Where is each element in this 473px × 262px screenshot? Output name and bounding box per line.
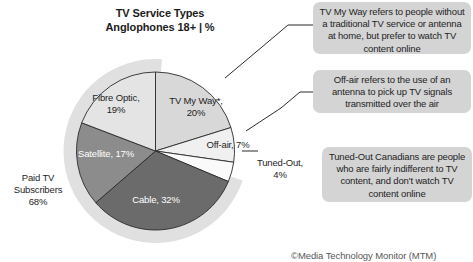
slice-label-satellite-text: Satellite, 17% — [78, 148, 134, 159]
callout-tuned-out-text: Tuned-Out Canadians are people who are f… — [329, 151, 465, 199]
slice-label-tv-my-way-name: TV My Way*, — [169, 95, 222, 106]
paid-tv-subscribers-label: Paid TV Subscribers 68% — [2, 172, 74, 208]
callout-tv-my-way: TV My Way refers to people without a tra… — [313, 2, 471, 54]
slice-label-tv-my-way: TV My Way*, 20% — [158, 95, 234, 119]
paid-tv-line2: Subscribers — [2, 184, 74, 196]
paid-tv-line1: Paid TV — [22, 172, 55, 183]
slice-label-fibre-optic-value: 19% — [78, 104, 154, 116]
paid-tv-line3: 68% — [2, 196, 74, 208]
slice-label-tv-my-way-value: 20% — [158, 107, 234, 119]
callout-tv-my-way-text: TV My Way refers to people without a tra… — [319, 6, 464, 54]
slice-label-satellite: Satellite, 17% — [68, 148, 144, 160]
slice-label-off-air: Off-air, 7% — [196, 139, 260, 151]
callout-off-air-text: Off-air refers to the use of an antenna … — [332, 74, 452, 109]
slice-label-fibre-optic-name: Fibre Optic, — [92, 92, 139, 103]
callout-tuned-out: Tuned-Out Canadians are people who are f… — [322, 147, 472, 202]
leader-line-off-air — [246, 92, 313, 131]
source-credit: ©Media Technology Monitor (MTM) — [291, 250, 436, 261]
pie-chart-figure: TV Service Types Anglophones 18+ | % Fib… — [0, 0, 473, 262]
leader-line-tv-my-way — [225, 25, 313, 78]
slice-label-cable-text: Cable, 32% — [132, 194, 180, 205]
callout-off-air: Off-air refers to the use of an antenna … — [313, 70, 471, 113]
slice-label-fibre-optic: Fibre Optic, 19% — [78, 92, 154, 116]
slice-label-off-air-text: Off-air, 7% — [206, 139, 249, 150]
callout-leader-lines — [225, 25, 313, 151]
slice-label-tuned-out-value: 4% — [252, 169, 308, 181]
slice-label-cable: Cable, 32% — [118, 194, 194, 206]
slice-label-tuned-out-name: Tuned-Out, — [257, 157, 303, 168]
slice-label-tuned-out: Tuned-Out, 4% — [252, 157, 308, 181]
